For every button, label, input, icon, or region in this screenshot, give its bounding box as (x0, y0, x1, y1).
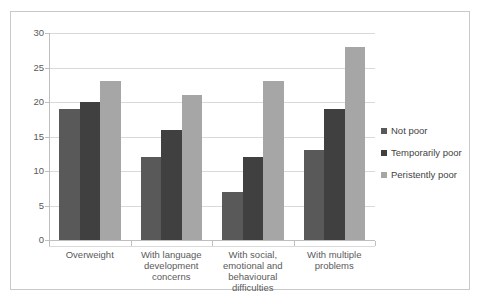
legend-item[interactable]: Not poor (381, 125, 477, 136)
y-axis-tick-label: 25 (14, 63, 44, 73)
x-axis-category-label-line: With multiple (296, 249, 374, 260)
figure-container: 051015202530 OverweightWith languagedeve… (0, 0, 482, 306)
bar (324, 109, 345, 240)
x-axis-category-label-line: development (133, 260, 211, 271)
y-axis-tick-label: 15 (14, 132, 44, 142)
bar-series-layer (49, 33, 375, 240)
y-axis-tick-label: 0 (14, 235, 44, 245)
y-axis-tick-label: 20 (14, 97, 44, 107)
y-axis-tick-label: 5 (14, 201, 44, 211)
x-axis-category-label-line: With language (133, 249, 211, 260)
x-axis-category-label: Overweight (49, 249, 131, 294)
x-axis-category-labels: OverweightWith languagedevelopmentconcer… (49, 249, 375, 294)
legend-item[interactable]: Temporarily poor (381, 147, 477, 158)
x-axis-category-label-line: concerns (133, 271, 211, 282)
bar (243, 157, 264, 240)
legend-label: Peristently poor (391, 169, 457, 180)
y-axis-ticks: 051015202530 (11, 33, 44, 240)
legend-label: Not poor (391, 125, 427, 136)
x-axis-category-label: With multipleproblems (294, 249, 376, 294)
bar (304, 150, 325, 240)
x-axis-category-label-line: difficulties (214, 282, 292, 293)
bar (59, 109, 80, 240)
legend-label: Temporarily poor (391, 147, 462, 158)
x-axis-category-label-line: behavioural (214, 271, 292, 282)
bar (263, 81, 284, 240)
bar (141, 157, 162, 240)
x-axis-category-label-line: problems (296, 260, 374, 271)
chart-legend: Not poorTemporarily poorPeristently poor (381, 125, 477, 191)
legend-item[interactable]: Peristently poor (381, 169, 477, 180)
y-axis-tick-label: 30 (14, 28, 44, 38)
category-separator (375, 241, 376, 246)
x-axis-underline (49, 246, 375, 247)
legend-swatch-icon (381, 150, 387, 156)
legend-swatch-icon (381, 128, 387, 134)
x-axis-category-label-line: With social, (214, 249, 292, 260)
x-axis-category-label-line: emotional and (214, 260, 292, 271)
legend-swatch-icon (381, 172, 387, 178)
chart-frame: 051015202530 OverweightWith languagedeve… (10, 11, 470, 290)
bar (100, 81, 121, 240)
bar (182, 95, 203, 240)
x-axis-category-label: With social,emotional andbehaviouraldiff… (212, 249, 294, 294)
bar (80, 102, 101, 240)
bar (222, 192, 243, 240)
bar (345, 47, 366, 240)
bar (161, 130, 182, 240)
y-axis-tick-label: 10 (14, 166, 44, 176)
x-axis-category-label-line: Overweight (51, 249, 129, 260)
x-axis-category-label: With languagedevelopmentconcerns (131, 249, 213, 294)
